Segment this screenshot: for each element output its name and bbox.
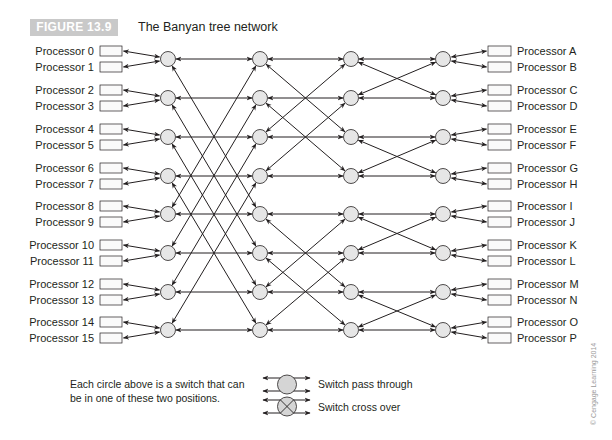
processor-link [124, 332, 160, 338]
processor-label: Processor 10 [29, 239, 94, 251]
processor-box [488, 46, 511, 56]
processor-box [488, 279, 511, 289]
processor-box [488, 333, 511, 343]
processor-label: Processor 1 [35, 61, 94, 73]
switch-node [344, 207, 359, 222]
processor-link [452, 284, 487, 290]
processor-link [124, 206, 160, 212]
legend-pass-through-label: Switch pass through [318, 377, 413, 391]
processor-label: Processor 8 [35, 200, 94, 212]
processor-link [124, 294, 160, 300]
processor-label: Processor N [517, 294, 578, 306]
processor-link [452, 51, 487, 57]
switch-node [253, 246, 268, 261]
processor-link [124, 129, 160, 135]
switch-node [344, 246, 359, 261]
legend-description: Each circle above is a switch that can b… [70, 377, 245, 405]
processor-link [124, 322, 160, 328]
processor-box [100, 85, 122, 95]
processor-link [124, 168, 160, 174]
processor-box [100, 333, 122, 343]
switch-node [253, 285, 268, 300]
processor-box [488, 317, 511, 327]
switch-node [253, 169, 268, 184]
switch-node [161, 246, 176, 261]
switch-node [436, 323, 451, 338]
processor-box [100, 179, 122, 189]
processor-link [124, 284, 160, 290]
switch-node [436, 130, 451, 145]
switch-node [344, 91, 359, 106]
processor-box [488, 101, 511, 111]
processor-label: Processor B [517, 61, 577, 73]
processor-label: Processor D [517, 100, 578, 112]
processor-label: Processor L [517, 255, 576, 267]
processor-link [124, 216, 160, 222]
switch-node [253, 130, 268, 145]
processor-link [452, 139, 487, 145]
switch-node [253, 52, 268, 67]
processor-label: Processor C [517, 84, 578, 96]
legend-pass-through-icon [263, 375, 310, 394]
processor-label: Processor 7 [35, 178, 94, 190]
processor-box [100, 201, 122, 211]
processor-link [452, 100, 487, 106]
processor-box [100, 217, 122, 227]
switch-node [436, 52, 451, 67]
processor-label: Processor P [517, 332, 577, 344]
processor-label: Processor 0 [35, 45, 94, 57]
switch-node [161, 323, 176, 338]
switch-node [161, 52, 176, 67]
processor-link [124, 255, 160, 261]
processor-label: Processor I [517, 200, 573, 212]
processor-link [124, 90, 160, 96]
processor-label: Processor H [517, 178, 578, 190]
processor-box [100, 101, 122, 111]
processor-box [488, 179, 511, 189]
network-links [124, 51, 487, 338]
processor-label: Processor 3 [35, 100, 94, 112]
processor-link [124, 178, 160, 184]
processor-label: Processor J [517, 216, 575, 228]
processor-link [124, 51, 160, 57]
processor-link [452, 206, 487, 212]
switch-node [161, 285, 176, 300]
processor-label: Processor A [517, 45, 577, 57]
switch-node [161, 91, 176, 106]
switch-node [344, 285, 359, 300]
processor-label: Processor 2 [35, 84, 94, 96]
processor-label: Processor M [517, 278, 579, 290]
processor-link [452, 322, 487, 328]
processor-link [452, 168, 487, 174]
switch-node [436, 169, 451, 184]
switch-node [161, 169, 176, 184]
processor-link [124, 100, 160, 106]
processor-label: Processor G [517, 162, 578, 174]
processor-label: Processor F [517, 139, 577, 151]
processor-link [452, 178, 487, 184]
left-processors: Processor 0Processor 1Processor 2Process… [29, 45, 122, 344]
legend-cross-over-icon [263, 397, 310, 416]
switch-node [161, 207, 176, 222]
switch-node [436, 91, 451, 106]
banyan-network-diagram: Processor 0Processor 1Processor 2Process… [0, 0, 612, 440]
processor-box [100, 46, 122, 56]
processor-box [100, 62, 122, 72]
processor-label: Processor 15 [29, 332, 94, 344]
processor-box [488, 240, 511, 250]
processor-link [124, 139, 160, 145]
processor-label: Processor 14 [29, 316, 94, 328]
processor-box [488, 256, 511, 266]
processor-label: Processor 12 [29, 278, 94, 290]
processor-link [452, 294, 487, 300]
processor-box [488, 140, 511, 150]
switch-node [253, 207, 268, 222]
switch-node [253, 323, 268, 338]
processor-box [488, 85, 511, 95]
processor-box [100, 140, 122, 150]
switch-node [344, 130, 359, 145]
processor-link [452, 129, 487, 135]
switch-node [436, 285, 451, 300]
processor-box [100, 240, 122, 250]
processor-box [488, 201, 511, 211]
